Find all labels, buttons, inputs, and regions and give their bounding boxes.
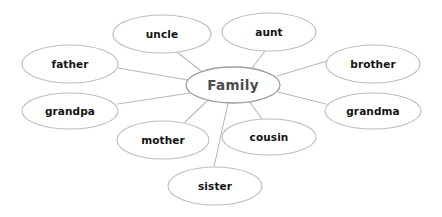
- edge-family-to-grandpa: [118, 93, 190, 104]
- branch-node-label-brother: brother: [350, 58, 395, 70]
- branch-node-label-grandma: grandma: [346, 105, 400, 117]
- branch-node-label-grandpa: grandpa: [45, 105, 95, 117]
- mind-map-diagram: uncleauntfatherbrothergrandpagrandmamoth…: [0, 0, 442, 217]
- edge-family-to-brother: [277, 61, 327, 76]
- edge-family-to-aunt: [252, 51, 265, 68]
- edge-family-to-grandma: [278, 92, 326, 104]
- branch-node-label-cousin: cousin: [250, 131, 289, 143]
- edge-family-to-uncle: [177, 52, 201, 71]
- branch-node-label-uncle: uncle: [146, 28, 178, 40]
- branch-node-label-sister: sister: [198, 180, 232, 192]
- central-node-label-family: Family: [207, 77, 258, 93]
- edge-family-to-cousin: [249, 101, 262, 119]
- branch-node-label-mother: mother: [141, 134, 185, 146]
- branch-node-label-aunt: aunt: [255, 26, 282, 38]
- edge-family-to-father: [118, 68, 188, 80]
- edge-family-to-mother: [185, 101, 207, 122]
- branch-node-label-father: father: [51, 58, 88, 70]
